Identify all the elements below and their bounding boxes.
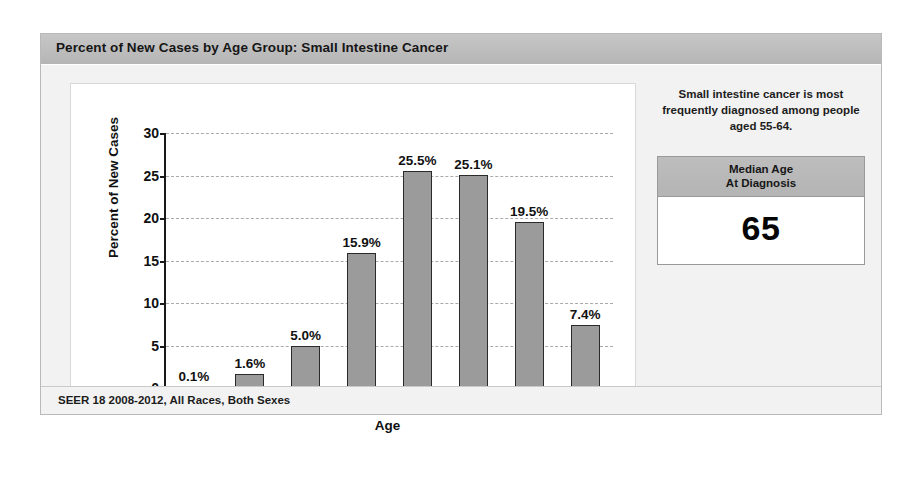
plot-area: 051015202530 0.1%<201.6%20-345.0%35-4415…: [164, 133, 613, 390]
y-tick-label: 10: [143, 295, 159, 311]
bar: [459, 175, 488, 388]
y-axis-title: Percent of New Cases: [106, 98, 121, 278]
x-axis-title: Age: [164, 418, 611, 433]
bar-value-label: 25.5%: [398, 153, 436, 168]
bar-group: 0.1%<20: [166, 133, 222, 388]
bar-value-label: 19.5%: [510, 204, 548, 219]
bar: [515, 222, 544, 388]
median-age-heading-line1: Median Age: [658, 162, 864, 176]
bar: [403, 171, 432, 388]
side-panel: Small intestine cancer is most frequentl…: [657, 86, 865, 265]
median-age-heading-line2: At Diagnosis: [658, 176, 864, 190]
bar-group: 15.9%45-54: [334, 133, 390, 388]
bar-value-label: 15.9%: [342, 235, 380, 250]
card-header-bar: Percent of New Cases by Age Group: Small…: [41, 34, 881, 65]
bar-group: 5.0%35-44: [278, 133, 334, 388]
bar-group: 19.5%75-84: [501, 133, 557, 388]
y-tick-label: 15: [143, 253, 159, 269]
bar: [571, 325, 600, 388]
bar: [347, 253, 376, 388]
bar-value-label: 1.6%: [234, 356, 265, 371]
chart-panel: Percent of New Cases 051015202530 0.1%<2…: [70, 83, 636, 398]
median-age-value: 65: [658, 197, 864, 264]
median-age-box: Median Age At Diagnosis 65: [657, 156, 865, 265]
bar-group: 7.4%>84: [557, 133, 613, 388]
bar-value-label: 0.1%: [179, 369, 210, 384]
side-panel-note: Small intestine cancer is most frequentl…: [657, 86, 865, 134]
y-tick-label: 25: [143, 168, 159, 184]
card-footer: SEER 18 2008-2012, All Races, Both Sexes: [41, 386, 881, 414]
y-tick-label: 30: [143, 125, 159, 141]
y-tick-label: 20: [143, 210, 159, 226]
y-tick-label: 5: [151, 338, 159, 354]
bar-group: 1.6%20-34: [222, 133, 278, 388]
bars-group: 0.1%<201.6%20-345.0%35-4415.9%45-5425.5%…: [166, 133, 613, 388]
bar: [291, 346, 320, 389]
chart-card: Percent of New Cases by Age Group: Small…: [40, 33, 882, 415]
median-age-heading: Median Age At Diagnosis: [658, 157, 864, 197]
bar-group: 25.1%65-74: [445, 133, 501, 388]
screenshot-root: Percent of New Cases by Age Group: Small…: [0, 0, 923, 482]
bar-value-label: 7.4%: [570, 307, 601, 322]
page-title: Percent of New Cases by Age Group: Small…: [56, 40, 448, 55]
bar-group: 25.5%55-64: [390, 133, 446, 388]
footer-source-text: SEER 18 2008-2012, All Races, Both Sexes: [58, 394, 290, 406]
bar-value-label: 25.1%: [454, 157, 492, 172]
bar-value-label: 5.0%: [290, 328, 321, 343]
